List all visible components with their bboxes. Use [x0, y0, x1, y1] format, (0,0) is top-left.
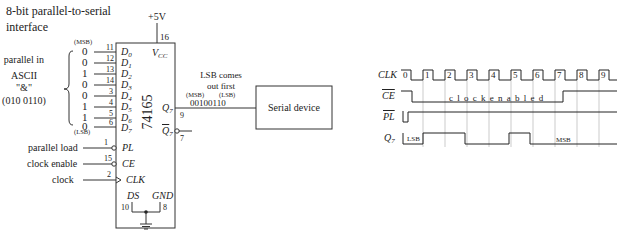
svg-text:5: 5: [109, 109, 113, 118]
q7n-bubble: [175, 129, 179, 133]
lsb-note-1: LSB comes: [200, 70, 242, 80]
lsb-note-2: out first: [207, 81, 236, 91]
svg-text:15: 15: [104, 154, 112, 163]
q7n-pin: 7: [180, 134, 184, 143]
vcc-label: VCC: [152, 47, 168, 60]
svg-text:CE: CE: [122, 158, 135, 169]
clock-triangle-icon: [116, 177, 121, 183]
q7n-label: Q7: [162, 125, 173, 138]
desc-3: "&": [16, 82, 32, 93]
vcc-pin: 16: [160, 32, 170, 42]
svg-text:4: 4: [109, 98, 113, 107]
chip-name: 74165: [140, 95, 155, 130]
svg-text:CLK: CLK: [126, 174, 146, 185]
q7-label: Q7: [162, 102, 173, 115]
sig-pl: PL: [382, 111, 395, 122]
svg-text:4: 4: [491, 70, 496, 80]
svg-text:3: 3: [109, 87, 113, 96]
desc-2: ASCII: [11, 70, 37, 81]
q7-pin: 9: [180, 111, 184, 120]
clk-waveform: [401, 70, 617, 80]
sig-ce: CE: [382, 90, 395, 101]
svg-text:1: 1: [425, 70, 430, 80]
svg-text:9: 9: [601, 70, 606, 80]
ds-pin: 10: [121, 203, 129, 212]
svg-text:11: 11: [106, 43, 114, 52]
control-ce: clock enable 15 CE: [27, 154, 135, 169]
svg-text:7: 7: [557, 70, 562, 80]
svg-text:5: 5: [513, 70, 518, 80]
sig-q7: Q7: [384, 132, 395, 145]
ce-note: c l o c k e n a b l e d: [449, 93, 544, 103]
gnd-pin: 8: [163, 203, 167, 212]
svg-text:2: 2: [447, 70, 452, 80]
svg-text:13: 13: [106, 65, 114, 74]
control-clk: clock 2 CLK: [52, 170, 146, 185]
svg-text:0: 0: [403, 70, 408, 80]
pl-waveform: [403, 111, 617, 122]
svg-text:6: 6: [535, 70, 540, 80]
svg-text:3: 3: [469, 70, 474, 80]
title-line1: 8-bit parallel-to-serial: [6, 4, 112, 18]
parallel-to-serial-diagram: 8-bit parallel-to-serial interface +5V 1…: [0, 0, 623, 239]
svg-text:PL: PL: [121, 142, 134, 153]
svg-text:parallel load: parallel load: [28, 142, 78, 153]
svg-text:clock: clock: [52, 174, 74, 185]
edge-gridlines: [423, 80, 599, 147]
sig-clk: CLK: [378, 69, 398, 80]
ce-bubble: [112, 162, 116, 166]
parallel-inputs: 0 11 D0 0 12 D1 1 13 D2 0 14 D3 0 3 D4: [82, 43, 132, 135]
svg-text:0: 0: [82, 120, 88, 132]
ds-label: DS: [126, 190, 139, 201]
q7-lsb-label: LSB: [407, 135, 420, 143]
timing-diagram: CLK CE PL Q7 0 1 2 3 4 5 6 7 8 9: [378, 69, 617, 147]
svg-text:14: 14: [106, 76, 114, 85]
q7-waveform: [403, 133, 617, 144]
serial-value: 00100110: [190, 98, 226, 108]
svg-text:1: 1: [104, 138, 108, 147]
title-line2: interface: [6, 20, 48, 34]
svg-text:clock enable: clock enable: [27, 158, 78, 169]
q7-msb-label: MSB: [556, 136, 571, 144]
power-label: +5V: [148, 11, 167, 22]
desc-4: (010 0110): [2, 95, 46, 107]
pl-bubble: [112, 146, 116, 150]
svg-text:6: 6: [109, 118, 113, 127]
brace: [64, 51, 73, 125]
svg-text:12: 12: [106, 54, 114, 63]
desc-1: parallel in: [4, 54, 44, 65]
gnd-label: GND: [152, 190, 174, 201]
control-pl: parallel load 1 PL: [28, 138, 134, 153]
svg-text:8: 8: [579, 70, 584, 80]
serial-device-label: Serial device: [268, 102, 320, 113]
svg-text:2: 2: [107, 170, 111, 179]
